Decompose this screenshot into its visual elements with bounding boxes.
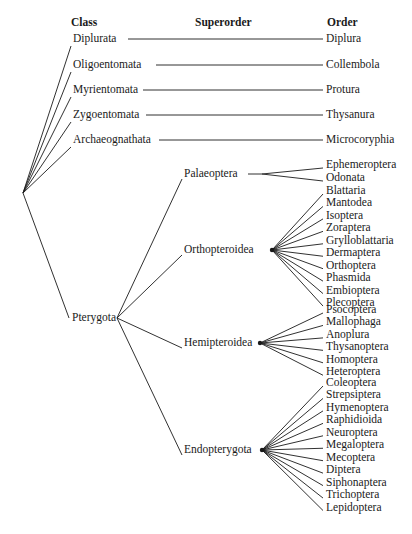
order-coleoptera: Coleoptera <box>326 376 376 389</box>
order-blattaria: Blattaria <box>326 184 366 197</box>
order-diptera: Diptera <box>326 463 360 476</box>
header-order: Order <box>327 16 358 29</box>
order-collembola: Collembola <box>326 58 380 71</box>
superorder-palaeoptera: Palaeoptera <box>184 167 238 180</box>
order-trichoptera: Trichoptera <box>326 488 379 501</box>
class-pterygota: Pterygota <box>72 311 116 324</box>
class-archaeognathata: Archaeognathata <box>73 133 151 146</box>
order-raphidioida: Raphidioida <box>326 413 382 426</box>
order-protura: Protura <box>326 83 360 96</box>
order-mantodea: Mantodea <box>326 196 372 209</box>
order-hymenoptera: Hymenoptera <box>326 401 389 414</box>
class-diplurata: Diplurata <box>73 32 116 45</box>
order-ephemeroptera: Ephemeroptera <box>326 158 396 171</box>
order-orthoptera: Orthoptera <box>326 259 376 272</box>
order-neuroptera: Neuroptera <box>326 426 378 439</box>
order-megaloptera: Megaloptera <box>326 438 384 451</box>
order-mecoptera: Mecoptera <box>326 451 375 464</box>
order-homoptera: Homoptera <box>326 353 378 366</box>
order-strepsiptera: Strepsiptera <box>326 388 381 401</box>
order-embioptera: Embioptera <box>326 284 380 297</box>
order-dermaptera: Dermaptera <box>326 246 380 259</box>
superorder-endopterygota: Endopterygota <box>184 443 252 456</box>
superorder-hemipteroidea: Hemipteroidea <box>184 336 252 349</box>
order-phasmida: Phasmida <box>326 271 371 284</box>
class-myrientomata: Myrientomata <box>73 83 138 96</box>
order-thysanura: Thysanura <box>326 108 375 121</box>
order-microcoryphia: Microcoryphia <box>326 133 394 146</box>
order-grylloblattaria: Grylloblattaria <box>326 234 394 247</box>
order-siphonaptera: Siphonaptera <box>326 476 387 489</box>
class-zygoentomata: Zygoentomata <box>73 108 139 121</box>
order-diplura: Diplura <box>326 32 361 45</box>
order-thysanoptera: Thysanoptera <box>326 340 389 353</box>
order-isoptera: Isoptera <box>326 209 363 222</box>
superorder-orthopteroidea: Orthopteroidea <box>184 243 254 256</box>
order-anoplura: Anoplura <box>326 328 369 341</box>
order-zoraptera: Zoraptera <box>326 221 371 234</box>
order-psocoptera: Psocoptera <box>326 303 376 316</box>
order-mallophaga: Mallophaga <box>326 315 381 328</box>
header-superorder: Superorder <box>195 16 252 29</box>
class-oligoentomata: Oligoentomata <box>73 58 141 71</box>
order-odonata: Odonata <box>326 171 365 184</box>
order-lepidoptera: Lepidoptera <box>326 501 382 514</box>
header-class: Class <box>71 16 97 29</box>
